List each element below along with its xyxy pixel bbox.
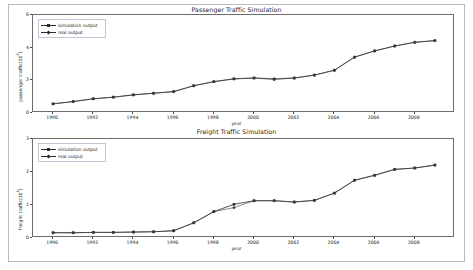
legend-row-simulation: simulation output xyxy=(41,22,102,29)
y-tick-mark xyxy=(30,47,32,48)
x-tick-label: 1992 xyxy=(86,115,98,120)
x-tick-label: 1990 xyxy=(46,240,58,245)
y-tick-label: 0 xyxy=(20,235,29,240)
x-tick-mark xyxy=(52,112,53,114)
x-tick-label: 2008 xyxy=(408,240,420,245)
x-tick-mark xyxy=(293,237,294,239)
x-tick-mark xyxy=(52,237,53,239)
x-tick-label: 1994 xyxy=(127,115,139,120)
y-tick-mark xyxy=(30,112,32,113)
legend-label-real: real output xyxy=(58,154,83,159)
legend-line-marker-diamond-icon xyxy=(41,29,56,36)
passenger-x-axis-label: year xyxy=(8,121,465,126)
x-tick-label: 1994 xyxy=(127,240,139,245)
x-tick-mark xyxy=(132,237,133,239)
x-tick-label: 1990 xyxy=(46,115,58,120)
x-tick-mark xyxy=(293,112,294,114)
passenger-legend: simulation output real output xyxy=(38,19,106,38)
y-tick-mark xyxy=(30,79,32,80)
x-tick-label: 1998 xyxy=(207,115,219,120)
x-tick-mark xyxy=(173,237,174,239)
x-tick-label: 2006 xyxy=(368,240,380,245)
x-tick-label: 1992 xyxy=(86,240,98,245)
x-tick-mark xyxy=(374,237,375,239)
legend-line-marker-square-icon xyxy=(41,22,56,29)
freight-x-axis-label: year xyxy=(8,246,465,251)
x-tick-mark xyxy=(333,112,334,114)
x-tick-mark xyxy=(253,112,254,114)
legend-row-simulation: simulation output xyxy=(41,146,102,153)
x-tick-label: 2004 xyxy=(328,240,340,245)
x-tick-mark xyxy=(92,237,93,239)
y-tick-mark xyxy=(30,14,32,15)
y-tick-label: 4 xyxy=(20,44,29,49)
y-tick-label: 2 xyxy=(20,77,29,82)
legend-line-marker-diamond-icon xyxy=(41,153,56,160)
x-tick-mark xyxy=(132,112,133,114)
passenger-chart-title: Passenger Traffic Simulation xyxy=(8,6,465,13)
x-tick-mark xyxy=(374,112,375,114)
panel-freight: Freight Traffic Simulation freight traff… xyxy=(8,128,465,262)
x-tick-mark xyxy=(414,112,415,114)
legend-label-simulation: simulation output xyxy=(58,23,98,28)
x-tick-mark xyxy=(92,112,93,114)
y-tick-mark xyxy=(30,138,32,139)
x-tick-label: 1998 xyxy=(207,240,219,245)
x-tick-label: 2004 xyxy=(328,115,340,120)
x-tick-mark xyxy=(173,112,174,114)
x-tick-label: 2000 xyxy=(247,115,259,120)
y-tick-mark xyxy=(30,237,32,238)
y-tick-mark xyxy=(30,204,32,205)
freight-chart-title: Freight Traffic Simulation xyxy=(8,128,465,135)
legend-line-marker-square-icon xyxy=(41,146,56,153)
legend-row-real: real output xyxy=(41,153,102,160)
x-tick-label: 1996 xyxy=(167,240,179,245)
legend-row-real: real output xyxy=(41,29,102,36)
panel-passenger: Passenger Traffic Simulation passenger t… xyxy=(8,4,465,128)
y-tick-label: 6 xyxy=(20,12,29,17)
y-tick-label: 3 xyxy=(20,136,29,141)
legend-label-real: real output xyxy=(58,30,83,35)
freight-y-axis-label: freight traffic(108) xyxy=(16,188,23,230)
x-tick-mark xyxy=(333,237,334,239)
figure-canvas: Passenger Traffic Simulation passenger t… xyxy=(0,0,473,270)
x-tick-label: 2000 xyxy=(247,240,259,245)
x-tick-label: 2002 xyxy=(287,115,299,120)
x-tick-mark xyxy=(414,237,415,239)
x-tick-label: 2008 xyxy=(408,115,420,120)
y-tick-mark xyxy=(30,171,32,172)
y-tick-label: 2 xyxy=(20,169,29,174)
x-tick-label: 1996 xyxy=(167,115,179,120)
x-tick-label: 2002 xyxy=(287,240,299,245)
freight-legend: simulation output real output xyxy=(38,143,106,162)
x-tick-mark xyxy=(253,237,254,239)
x-tick-mark xyxy=(213,237,214,239)
x-tick-label: 2006 xyxy=(368,115,380,120)
x-tick-mark xyxy=(213,112,214,114)
y-tick-label: 1 xyxy=(20,202,29,207)
y-tick-label: 0 xyxy=(20,110,29,115)
legend-label-simulation: simulation output xyxy=(58,147,98,152)
